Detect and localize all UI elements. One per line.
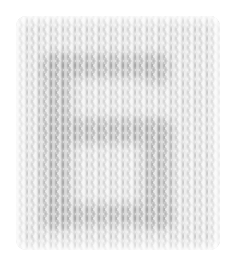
edge-fade: [16, 16, 220, 250]
knit-swatch-photo: [16, 16, 220, 250]
